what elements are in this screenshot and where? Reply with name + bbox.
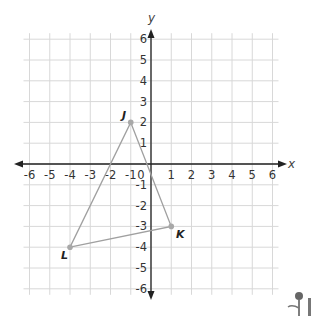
x-tick-label: -4 — [64, 168, 75, 182]
flower-decoration-icon — [288, 292, 311, 316]
vertex-label-j: J — [120, 109, 126, 122]
x-tick-label: 4 — [228, 168, 235, 182]
y-tick-label: -5 — [136, 261, 147, 275]
y-axis-up-arrow-icon — [148, 29, 155, 38]
vertex-labels: J K L — [61, 109, 186, 262]
y-tick-label: 5 — [140, 53, 147, 67]
vertex-point-k — [168, 224, 174, 230]
y-tick-label: 4 — [140, 74, 147, 88]
x-tick-label: -2 — [105, 168, 116, 182]
x-tick-label: 2 — [188, 168, 195, 182]
vertex-label-k: K — [176, 228, 186, 241]
y-axis-down-arrow-icon — [148, 291, 155, 300]
x-tick-label: -5 — [44, 168, 55, 182]
axes: x y — [14, 11, 296, 300]
vertex-point-j — [128, 120, 134, 126]
x-tick-label: 5 — [249, 168, 256, 182]
x-tick-label: 6 — [269, 168, 276, 182]
vertex-point-l — [67, 244, 73, 250]
x-tick-label: 3 — [208, 168, 215, 182]
x-axis-left-arrow-icon — [14, 161, 23, 168]
vertex-label-l: L — [61, 249, 68, 262]
y-tick-label: -1 — [136, 178, 147, 192]
coordinate-plane: x y -6-5-4-3-2-10123456654321-1-2-3-4-5-… — [0, 0, 311, 316]
y-tick-label: 6 — [140, 32, 147, 46]
x-tick-label: -6 — [24, 168, 35, 182]
y-tick-label: -4 — [136, 240, 147, 254]
y-tick-label: -2 — [136, 199, 147, 213]
x-axis-right-arrow-icon — [278, 161, 287, 168]
y-axis-label: y — [147, 11, 156, 25]
x-tick-label: -3 — [85, 168, 96, 182]
x-tick-label: 1 — [168, 168, 175, 182]
y-tick-label: -6 — [136, 282, 147, 296]
y-tick-label: 2 — [140, 115, 147, 129]
x-axis-label: x — [287, 157, 296, 171]
y-tick-label: 3 — [140, 95, 147, 109]
